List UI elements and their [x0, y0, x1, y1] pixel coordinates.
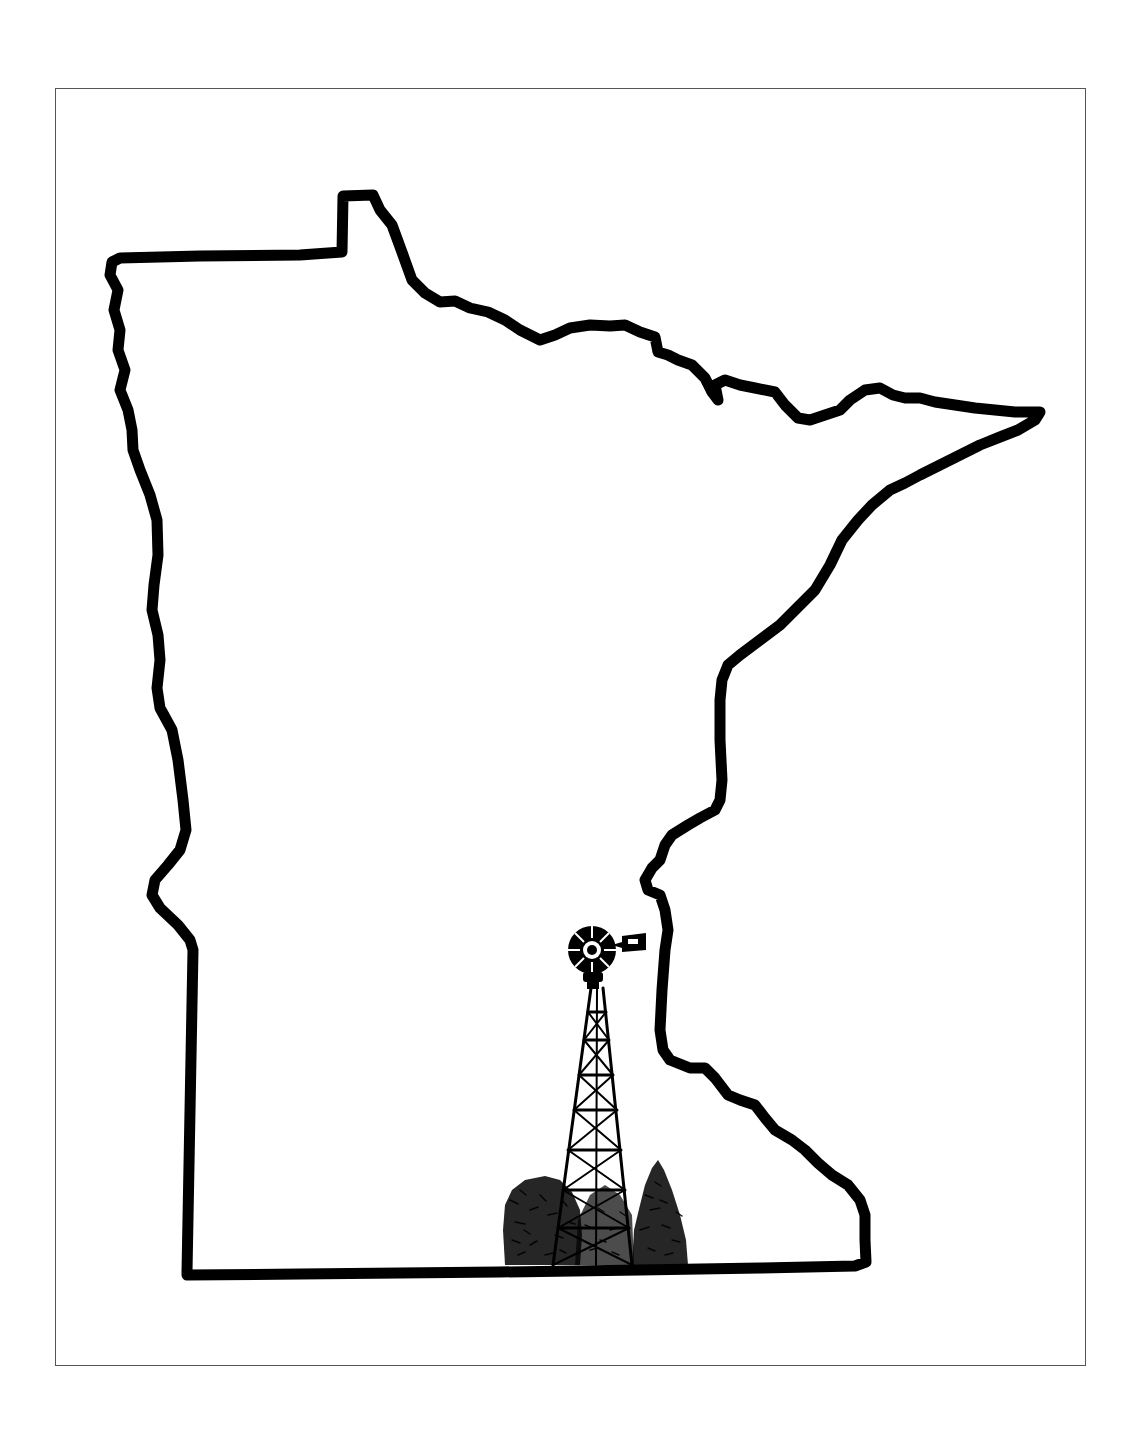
windmill-wheel [568, 926, 646, 989]
minnesota-illustration [0, 0, 1137, 1433]
tree-right [632, 1160, 688, 1265]
